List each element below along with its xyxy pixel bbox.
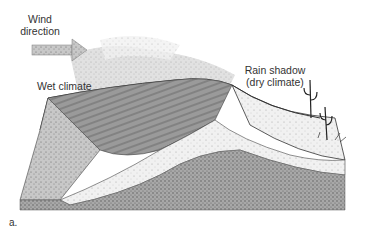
wind-label-line2: direction	[10, 25, 70, 37]
rain-shadow-label: Rain shadow (dry climate)	[236, 64, 314, 88]
wind-direction-label: Wind direction	[10, 13, 70, 37]
wet-climate-label: Wet climate	[37, 80, 92, 92]
wind-label-line1: Wind	[10, 13, 70, 25]
rain-shadow-line2: (dry climate)	[236, 76, 314, 88]
panel-label: a.	[9, 217, 17, 229]
rain-shadow-line1: Rain shadow	[236, 64, 314, 76]
